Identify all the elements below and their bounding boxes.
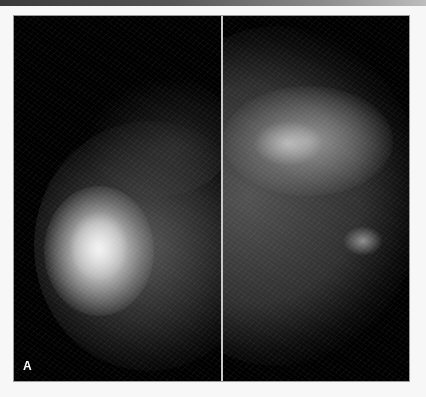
- top-gradient-bar: [0, 0, 426, 6]
- panel-label: A: [23, 359, 32, 373]
- right-mammogram-panel: [223, 16, 410, 381]
- mammogram-figure: A: [13, 15, 410, 382]
- left-mammogram-panel: A: [14, 16, 221, 381]
